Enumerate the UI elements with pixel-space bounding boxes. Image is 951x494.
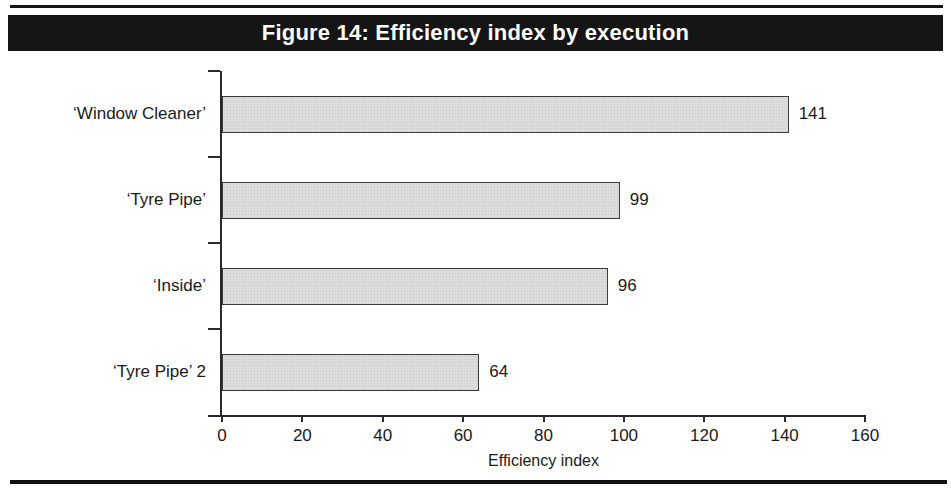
- top-rule: [10, 5, 943, 8]
- x-axis-tick: [462, 415, 464, 422]
- x-axis-tick-label: 120: [690, 426, 718, 446]
- y-axis-tick: [208, 156, 220, 158]
- y-axis-tick: [208, 242, 220, 244]
- bar-row: ‘Tyre Pipe’ 264: [222, 329, 865, 415]
- x-axis-tick-label: 80: [534, 426, 553, 446]
- bar-row: ‘Tyre Pipe’99: [222, 157, 865, 243]
- x-axis-title: Efficiency index: [222, 452, 865, 470]
- category-label: ‘Tyre Pipe’: [127, 190, 206, 210]
- x-axis-tick: [703, 415, 705, 422]
- x-axis-tick-label: 60: [454, 426, 473, 446]
- bottom-rule: [10, 480, 947, 484]
- x-axis-tick-label: 40: [373, 426, 392, 446]
- category-label: ‘Window Cleaner’: [73, 104, 206, 124]
- bar-row: ‘Window Cleaner’141: [222, 71, 865, 157]
- figure-14-panel: Figure 14: Efficiency index by execution…: [0, 0, 951, 494]
- y-axis-tick: [208, 70, 220, 72]
- bar: [222, 354, 479, 391]
- x-axis-tick: [301, 415, 303, 422]
- x-axis-tick: [784, 415, 786, 422]
- plot-area: Efficiency index ‘Window Cleaner’141‘Tyr…: [222, 71, 865, 415]
- x-axis-tick-label: 0: [217, 426, 226, 446]
- figure-title: Figure 14: Efficiency index by execution: [262, 20, 689, 46]
- x-axis-tick: [864, 415, 866, 422]
- x-axis-tick-label: 140: [770, 426, 798, 446]
- category-label: ‘Tyre Pipe’ 2: [113, 362, 206, 382]
- y-axis-tick: [208, 328, 220, 330]
- bar-value-label: 96: [618, 276, 637, 296]
- x-axis-line: [208, 415, 865, 417]
- x-axis-tick: [221, 415, 223, 422]
- x-axis-tick-label: 160: [851, 426, 879, 446]
- bar: [222, 268, 608, 305]
- bar-value-label: 141: [799, 104, 827, 124]
- bar-value-label: 99: [630, 190, 649, 210]
- x-axis-tick-label: 100: [610, 426, 638, 446]
- x-axis-tick-label: 20: [293, 426, 312, 446]
- x-axis-tick: [623, 415, 625, 422]
- bar-value-label: 64: [489, 362, 508, 382]
- x-axis-tick: [543, 415, 545, 422]
- x-axis-tick: [382, 415, 384, 422]
- bar: [222, 96, 789, 133]
- figure-title-banner: Figure 14: Efficiency index by execution: [8, 15, 943, 51]
- bar: [222, 182, 620, 219]
- category-label: ‘Inside’: [153, 276, 206, 296]
- bar-row: ‘Inside’96: [222, 243, 865, 329]
